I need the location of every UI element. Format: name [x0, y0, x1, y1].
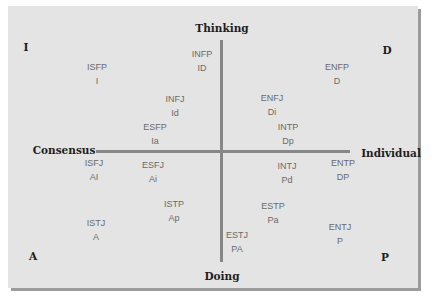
type-label: INTJPd [278, 159, 297, 187]
type-code: ISFJ [85, 156, 104, 170]
horizontal-axis-consensus-individual [96, 150, 350, 153]
type-label: ISFPI [87, 60, 107, 88]
type-code: ESTJ [226, 228, 248, 242]
corner-label-top-left: I [24, 42, 29, 53]
type-code: ENFP [325, 60, 349, 74]
type-label: ESTJPA [226, 228, 248, 256]
type-code: ESFJ [142, 158, 164, 172]
type-abbreviation: P [329, 234, 352, 248]
type-label: ESFJAi [142, 158, 164, 186]
type-abbreviation: I [87, 74, 107, 88]
type-label: ESFPIa [143, 120, 167, 148]
type-label: ENFJDi [261, 91, 284, 119]
type-abbreviation: Id [166, 106, 185, 120]
corner-label-bottom-left: A [29, 251, 37, 262]
type-label: ISTJA [87, 216, 106, 244]
type-abbreviation: Di [261, 105, 284, 119]
type-abbreviation: Ia [143, 134, 167, 148]
type-abbreviation: Pd [278, 173, 297, 187]
type-code: ISTJ [87, 216, 106, 230]
type-code: INTJ [278, 159, 297, 173]
type-abbreviation: Ap [164, 211, 184, 225]
type-code: ENTJ [329, 220, 352, 234]
type-code: ISFP [87, 60, 107, 74]
corner-label-top-right: D [382, 45, 391, 56]
type-label: INTPDp [278, 120, 299, 148]
axis-label-consensus: Consensus [33, 145, 96, 156]
type-abbreviation: AI [85, 170, 104, 184]
type-label: ENTJP [329, 220, 352, 248]
type-code: ENTP [331, 156, 355, 170]
type-label: INFJId [166, 92, 185, 120]
type-code: ENFJ [261, 91, 284, 105]
type-code: INFJ [166, 92, 185, 106]
type-abbreviation: Ai [142, 172, 164, 186]
axis-label-doing: Doing [204, 271, 239, 282]
type-code: INFP [192, 47, 213, 61]
type-code: INTP [278, 120, 299, 134]
type-label: ENTPDP [331, 156, 355, 184]
type-abbreviation: D [325, 74, 349, 88]
type-abbreviation: A [87, 230, 106, 244]
type-abbreviation: PA [226, 242, 248, 256]
type-abbreviation: Dp [278, 134, 299, 148]
type-label: INFPID [192, 47, 213, 75]
type-code: ISTP [164, 197, 184, 211]
axis-label-thinking: Thinking [195, 23, 248, 34]
type-label: ESTPPa [261, 199, 285, 227]
type-label: ISFJAI [85, 156, 104, 184]
type-label: ISTPAp [164, 197, 184, 225]
axis-label-individual: Individual [361, 148, 421, 159]
type-code: ESTP [261, 199, 285, 213]
type-code: ESFP [143, 120, 167, 134]
type-abbreviation: ID [192, 61, 213, 75]
type-label: ENFPD [325, 60, 349, 88]
type-abbreviation: Pa [261, 213, 285, 227]
type-abbreviation: DP [331, 170, 355, 184]
corner-label-bottom-right: P [381, 252, 389, 263]
